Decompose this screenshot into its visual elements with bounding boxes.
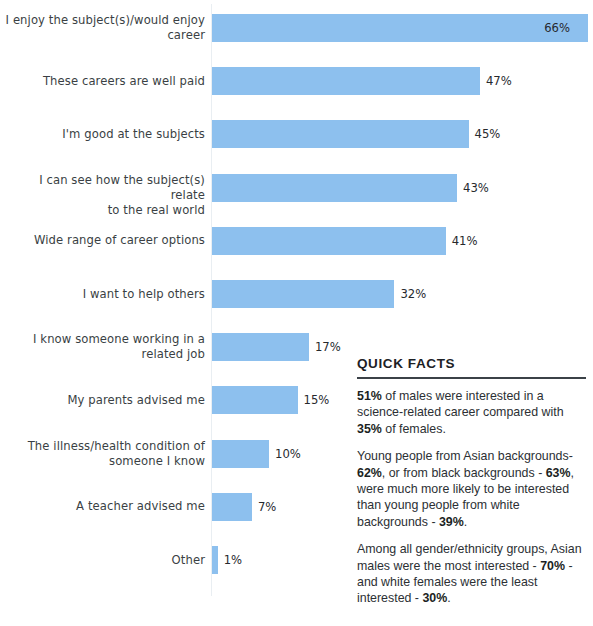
bar-fill	[212, 333, 309, 361]
bar-category-label: I'm good at the subjects	[5, 127, 205, 142]
bar-value-label: 45%	[475, 121, 501, 147]
bar-fill	[212, 227, 446, 255]
bar-value-label: 1%	[224, 547, 242, 573]
bar-category-label: My parents advised me	[5, 393, 205, 408]
bar-row: I enjoy the subject(s)/would enjoycareer…	[0, 5, 593, 51]
bar-track	[212, 493, 252, 521]
bar-value-label: 41%	[452, 228, 478, 254]
bar-category-label: Other	[5, 553, 205, 568]
bar-value-label: 15%	[304, 387, 330, 413]
bar-fill	[212, 493, 252, 521]
bar-category-label: I can see how the subject(s) relateto th…	[5, 173, 205, 218]
fact-figure: 63%	[546, 466, 571, 480]
bar-value-label: 47%	[486, 68, 512, 94]
bar-category-label: Wide range of career options	[5, 233, 205, 248]
bar-fill	[212, 280, 394, 308]
bar-row: I'm good at the subjects45%	[0, 111, 593, 157]
bar-track	[212, 14, 588, 42]
bar-fill	[212, 120, 469, 148]
fact-text: .	[464, 515, 467, 529]
bar-category-label: A teacher advised me	[5, 499, 205, 514]
bar-track	[212, 546, 218, 574]
bar-value-label: 66%	[544, 15, 570, 41]
bar-fill	[212, 174, 457, 202]
bar-row: These careers are well paid47%	[0, 58, 593, 104]
fact-text: , or from black backgrounds -	[382, 466, 546, 480]
quick-facts-divider	[357, 377, 586, 379]
bar-track	[212, 227, 446, 255]
fact-text: .	[447, 591, 450, 605]
bar-category-label: The illness/health condition ofsomeone I…	[5, 439, 205, 469]
bar-row: I want to help others32%	[0, 271, 593, 317]
bar-fill	[212, 67, 480, 95]
bar-category-label: I know someone working in arelated job	[5, 332, 205, 362]
fact-groups: Among all gender/ethnicity groups, Asian…	[357, 541, 588, 607]
fact-figure: 30%	[422, 591, 447, 605]
quick-facts-panel: QUICK FACTS 51% of males were interested…	[357, 356, 588, 607]
fact-text: of females.	[382, 422, 446, 436]
bar-track	[212, 280, 394, 308]
fact-figure: 39%	[439, 515, 464, 529]
fact-figure: 51%	[357, 389, 382, 403]
bar-fill	[212, 546, 218, 574]
bar-fill	[212, 386, 298, 414]
bar-category-label: These careers are well paid	[5, 74, 205, 89]
quick-facts-title: QUICK FACTS	[357, 356, 588, 371]
bar-row: Wide range of career options41%	[0, 218, 593, 264]
bar-row: I can see how the subject(s) relateto th…	[0, 165, 593, 211]
bar-track	[212, 333, 309, 361]
quick-facts-body: 51% of males were interested in a scienc…	[357, 388, 588, 607]
bar-track	[212, 120, 469, 148]
bar-category-label: I enjoy the subject(s)/would enjoycareer	[5, 13, 205, 43]
bar-fill	[212, 440, 269, 468]
fact-gender: 51% of males were interested in a scienc…	[357, 388, 588, 437]
bar-track	[212, 67, 480, 95]
bar-track	[212, 174, 457, 202]
fact-figure: 35%	[357, 422, 382, 436]
bar-track	[212, 386, 298, 414]
fact-text: Young people from Asian backgrounds-	[357, 449, 573, 463]
fact-ethnicity: Young people from Asian backgrounds-62%,…	[357, 448, 588, 530]
bar-value-label: 32%	[400, 281, 426, 307]
fact-figure: 70%	[540, 559, 565, 573]
fact-text: of males were interested in a science-re…	[357, 389, 564, 419]
bar-value-label: 7%	[258, 494, 276, 520]
bar-value-label: 43%	[463, 175, 489, 201]
bar-category-label: I want to help others	[5, 287, 205, 302]
fact-figure: 62%	[357, 466, 382, 480]
bar-value-label: 17%	[315, 334, 341, 360]
bar-value-label: 10%	[275, 441, 301, 467]
bar-fill	[212, 14, 588, 42]
bar-track	[212, 440, 269, 468]
